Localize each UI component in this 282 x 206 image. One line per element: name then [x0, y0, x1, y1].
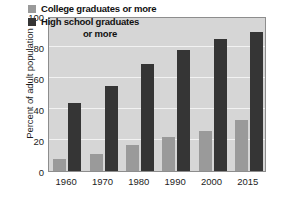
y-tick-label: 80 [14, 43, 44, 54]
bar-college-1980 [126, 145, 139, 171]
bar-chart-figure: Percent of adult population 020406080100… [0, 0, 282, 206]
bar-group [235, 18, 263, 171]
legend-swatch-highschool-icon [28, 18, 36, 26]
legend-swatch-college-icon [28, 5, 36, 13]
x-tick-label: 2000 [201, 176, 222, 187]
legend-label-college: College graduates or more [41, 3, 156, 15]
y-tick-label: 40 [14, 105, 44, 116]
x-tick-label: 1990 [165, 176, 186, 187]
legend-item-college: College graduates or more [28, 3, 200, 15]
legend-label-highschool-line2: or more [41, 28, 159, 40]
x-tick-label: 1960 [56, 176, 77, 187]
legend-label-highschool: High school graduates or more [41, 16, 159, 40]
legend-label-highschool-line1: High school graduates [41, 16, 139, 27]
bar-highschool-1990 [177, 50, 190, 171]
x-tick-label: 2015 [237, 176, 258, 187]
bar-college-1990 [162, 137, 175, 171]
y-tick-label: 20 [14, 136, 44, 147]
bar-highschool-1960 [68, 103, 81, 171]
chart-legend: College graduates or more High school gr… [28, 3, 200, 41]
bar-college-1970 [90, 154, 103, 171]
bar-highschool-2000 [214, 39, 227, 171]
x-tick-label: 1970 [92, 176, 113, 187]
y-tick-label: 60 [14, 74, 44, 85]
bar-highschool-1980 [141, 64, 154, 171]
bar-group [199, 18, 227, 171]
bar-highschool-2015 [250, 32, 263, 172]
bar-college-2015 [235, 120, 248, 171]
legend-item-highschool: High school graduates or more [28, 16, 200, 40]
x-axis-tick-labels: 196019701980199020002015 [48, 176, 266, 192]
y-tick-label: 0 [14, 167, 44, 178]
bar-college-2000 [199, 131, 212, 171]
x-tick-label: 1980 [128, 176, 149, 187]
bar-highschool-1970 [105, 86, 118, 171]
bar-college-1960 [53, 159, 66, 171]
